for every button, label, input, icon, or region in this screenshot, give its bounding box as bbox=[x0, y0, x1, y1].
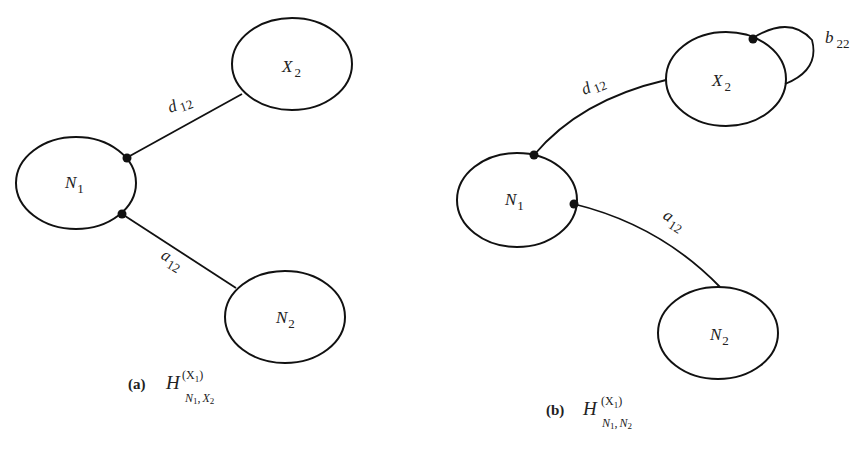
caption-a: (a) H (X1) N1,X2 bbox=[128, 368, 214, 406]
edge-label-b22: b22 bbox=[825, 28, 850, 51]
node-label-n2-a: N2 bbox=[275, 308, 295, 331]
edge-label-a12-b: a12 bbox=[658, 205, 689, 236]
edge-a12-b bbox=[574, 204, 720, 287]
svg-text:H: H bbox=[165, 372, 181, 393]
svg-text:(a): (a) bbox=[128, 376, 146, 393]
junction-dot bbox=[123, 154, 132, 163]
svg-text:d12: d12 bbox=[578, 72, 609, 101]
caption-b: (b) H (X1) N1,N2 bbox=[546, 394, 632, 431]
panel-b: X2 N1 N2 d12 a12 b22 (b) H (X1) bbox=[457, 27, 850, 431]
node-label-n1-a: N1 bbox=[64, 173, 84, 196]
edge-label-d12-a: d12 bbox=[165, 91, 195, 119]
caption-a-subscript: N1,X2 bbox=[184, 391, 214, 406]
edge-a12-a bbox=[122, 214, 236, 288]
junction-dot bbox=[570, 200, 579, 209]
svg-text:d12: d12 bbox=[165, 91, 195, 119]
junction-dot bbox=[118, 210, 127, 219]
node-label-x2-b: X2 bbox=[711, 71, 731, 94]
edge-b22-self-loop bbox=[753, 27, 813, 84]
node-label-n2-b: N2 bbox=[709, 325, 729, 348]
caption-a-superscript: (X1) bbox=[182, 368, 203, 384]
panel-a: X2 N1 N2 d12 a12 (a) H (X1) N1,X2 bbox=[16, 18, 352, 406]
caption-b-subscript: N1,N2 bbox=[601, 416, 632, 431]
caption-b-superscript: (X1) bbox=[601, 394, 622, 410]
svg-text:(b): (b) bbox=[546, 402, 564, 419]
svg-text:H: H bbox=[582, 398, 598, 419]
node-label-n1-b: N1 bbox=[504, 190, 524, 213]
svg-text:a12: a12 bbox=[658, 205, 689, 236]
edge-label-a12-a: a12 bbox=[156, 245, 187, 276]
svg-text:a12: a12 bbox=[156, 245, 187, 276]
edge-label-d12-b: d12 bbox=[578, 72, 609, 101]
junction-dot bbox=[530, 151, 539, 160]
junction-dot bbox=[749, 35, 758, 44]
node-label-x2-a: X2 bbox=[281, 57, 301, 80]
diagram-canvas: X2 N1 N2 d12 a12 (a) H (X1) N1,X2 bbox=[0, 0, 862, 449]
